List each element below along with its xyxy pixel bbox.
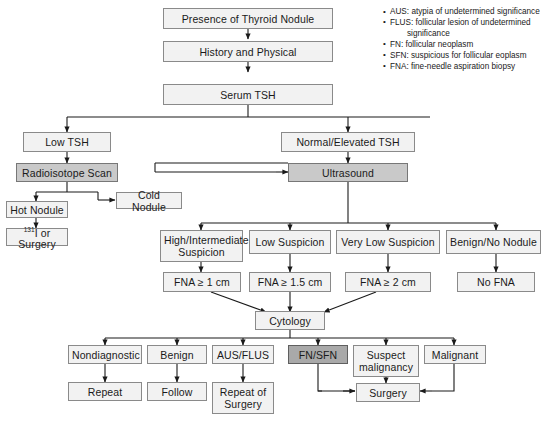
node-nondiagnostic[interactable]: Nondiagnostic <box>68 345 142 364</box>
node-label: Serum TSH <box>167 89 329 101</box>
abbreviation-legend: AUS: atypia of undetermined significance… <box>383 7 547 72</box>
node-label: History and Physical <box>167 46 329 58</box>
node-benign[interactable]: Benign <box>147 345 207 364</box>
node-label: High/Intermediate Suspicion <box>164 234 239 258</box>
node-high-intermediate-suspicion[interactable]: High/Intermediate Suspicion <box>160 230 243 262</box>
node-history-and-physical[interactable]: History and Physical <box>163 41 333 62</box>
node-fna-15cm[interactable]: FNA ≥ 1.5 cm <box>249 272 331 292</box>
node-label: Benign/No Nodule <box>450 236 537 248</box>
node-label: Ultrasound <box>292 167 404 179</box>
node-low-tsh[interactable]: Low TSH <box>23 132 111 152</box>
node-label: 131I or Surgery <box>10 224 64 251</box>
node-label: Suspect malignancy <box>357 349 415 373</box>
node-surgery[interactable]: Surgery <box>356 383 420 402</box>
node-label: Cold Nodule <box>120 189 178 213</box>
node-label: No FNA <box>461 276 531 288</box>
node-repeat-of-surgery[interactable]: Repeat of Surgery <box>212 382 274 414</box>
node-benign-no-nodule[interactable]: Benign/No Nodule <box>446 230 541 254</box>
node-radioisotope-scan[interactable]: Radioisotope Scan <box>16 163 118 182</box>
node-label: Hot Nodule <box>10 204 64 216</box>
node-label: Follow <box>151 386 203 398</box>
node-i131-or-surgery[interactable]: 131I or Surgery <box>6 228 68 246</box>
node-repeat[interactable]: Repeat <box>68 382 142 401</box>
legend-item-continuation: significance <box>383 29 547 39</box>
legend-list: AUS: atypia of undetermined significance… <box>383 7 547 72</box>
node-very-low-suspicion[interactable]: Very Low Suspicion <box>336 230 440 254</box>
node-no-fna[interactable]: No FNA <box>457 272 535 292</box>
node-label: FNA ≥ 2 cm <box>349 276 427 288</box>
node-aus-flus[interactable]: AUS/FLUS <box>212 345 274 364</box>
node-label: FN/SFN <box>292 349 344 361</box>
node-suspect-malignancy[interactable]: Suspect malignancy <box>353 345 419 377</box>
node-label: Repeat <box>72 386 138 398</box>
node-fna-2cm[interactable]: FNA ≥ 2 cm <box>345 272 431 292</box>
node-label: Surgery <box>360 387 416 399</box>
node-label: Low TSH <box>27 136 107 148</box>
node-label: Normal/Elevated TSH <box>285 136 411 148</box>
isotope-superscript: 131 <box>24 226 35 233</box>
node-label: Repeat of Surgery <box>216 386 270 410</box>
node-ultrasound[interactable]: Ultrasound <box>288 163 408 182</box>
node-label: Low Suspicion <box>253 236 327 248</box>
node-label: Nondiagnostic <box>72 349 138 361</box>
node-cold-nodule[interactable]: Cold Nodule <box>116 192 182 209</box>
node-hot-nodule[interactable]: Hot Nodule <box>6 201 68 218</box>
node-fn-sfn[interactable]: FN/SFN <box>288 345 348 364</box>
legend-item: FLUS: follicular lesion of undetermined <box>383 18 547 28</box>
node-normal-elevated-tsh[interactable]: Normal/Elevated TSH <box>281 132 415 152</box>
node-label: Presence of Thyroid Nodule <box>167 13 329 25</box>
legend-item: AUS: atypia of undetermined significance <box>383 7 547 17</box>
node-label: AUS/FLUS <box>216 349 270 361</box>
node-label: Cytology <box>259 315 321 327</box>
node-fna-1cm[interactable]: FNA ≥ 1 cm <box>163 272 241 292</box>
node-label: FNA ≥ 1 cm <box>167 276 237 288</box>
node-cytology[interactable]: Cytology <box>255 311 325 330</box>
node-follow[interactable]: Follow <box>147 382 207 401</box>
flowchart-canvas: Presence of Thyroid Nodule History and P… <box>0 0 547 435</box>
node-serum-tsh[interactable]: Serum TSH <box>163 84 333 105</box>
node-malignant[interactable]: Malignant <box>424 345 486 364</box>
node-label: Malignant <box>428 349 482 361</box>
legend-item: SFN: suspicious for follicular eoplasm <box>383 51 547 61</box>
node-presence-of-thyroid-nodule[interactable]: Presence of Thyroid Nodule <box>163 8 333 29</box>
node-label: Very Low Suspicion <box>340 236 436 248</box>
legend-item: FNA: fine-needle aspiration biopsy <box>383 62 547 72</box>
node-label: FNA ≥ 1.5 cm <box>253 276 327 288</box>
node-label: Benign <box>151 349 203 361</box>
node-label: Radioisotope Scan <box>20 167 114 179</box>
legend-item: FN: follicular neoplasm <box>383 40 547 50</box>
node-low-suspicion[interactable]: Low Suspicion <box>249 230 331 254</box>
